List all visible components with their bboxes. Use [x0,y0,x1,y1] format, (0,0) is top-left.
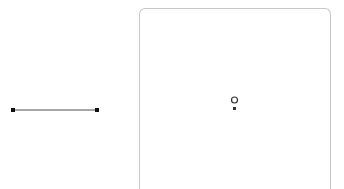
canvas [0,0,344,189]
solid-point-icon[interactable] [233,107,236,110]
hollow-point-icon[interactable] [232,97,238,103]
segment-start-point[interactable] [11,108,15,112]
panel-figure [140,9,332,189]
segment-end-point[interactable] [95,108,99,112]
panel-card [139,8,331,189]
line-segment [0,0,130,189]
